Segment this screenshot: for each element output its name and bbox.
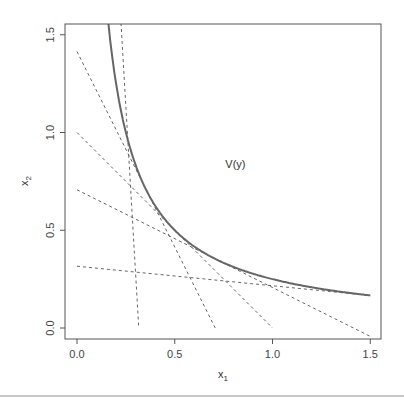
y-axis-label: x2	[18, 175, 33, 186]
tangent-1-line	[121, 23, 139, 328]
x-tick-label: 1.0	[265, 348, 280, 360]
annotation-vy: V(y)	[225, 158, 245, 170]
bottom-divider	[0, 395, 404, 397]
x-axis-label: x1	[218, 368, 229, 383]
tangent-4-line	[77, 190, 370, 337]
x-axis: 0.00.51.01.5	[69, 339, 378, 360]
x-tick-label: 1.5	[363, 348, 378, 360]
x-tick-label: 0.5	[167, 348, 182, 360]
x-tick-label: 0.0	[69, 348, 84, 360]
y-tick-label: 1.5	[44, 27, 56, 42]
plot-lines	[77, 23, 370, 337]
isoquant-chart: 0.00.51.01.5 0.00.51.01.5 x1 x2 V(y)	[0, 0, 404, 400]
y-axis: 0.00.51.01.5	[44, 27, 65, 336]
y-tick-label: 0.0	[44, 320, 56, 335]
tangent-5-line	[77, 266, 370, 295]
y-tick-label: 0.5	[44, 223, 56, 238]
y-tick-label: 1.0	[44, 125, 56, 140]
tangent-2-line	[77, 52, 215, 328]
